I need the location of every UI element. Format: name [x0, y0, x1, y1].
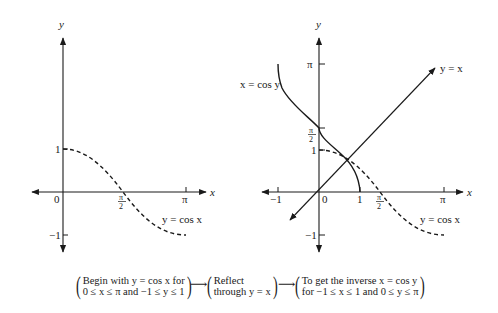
caption-step-reflect: ( Reflect through y = x ) [205, 274, 279, 298]
right-y-tick-halfpi-num: π [309, 126, 313, 135]
right-x-tick-neg1: −1 [270, 193, 282, 205]
left-x-tick-halfpi-num: π [119, 193, 123, 202]
right-graph: y x 0 −1 1 π 2 π π π 2 1 −1 y = x x = co… [240, 18, 472, 252]
caption-step-begin: ( Begin with y = cos x for 0 ≤ x ≤ π and… [74, 274, 194, 298]
left-y-tick-1: 1 [55, 143, 61, 155]
caption-step-reflect-line1: Reflect [214, 275, 271, 287]
caption: ( Begin with y = cos x for 0 ≤ x ≤ π and… [0, 274, 498, 298]
inverse-curve-label: x = cos y [240, 78, 281, 90]
right-y-axis-label: y [315, 18, 321, 30]
left-y-tick-neg1: −1 [49, 229, 61, 241]
caption-step-inverse: ( To get the inverse x = cos y for −1 ≤ … [293, 274, 427, 298]
left-graph: y x 0 1 −1 π 2 π y = cos x [32, 18, 215, 252]
right-y-tick-halfpi-den: 2 [309, 135, 313, 144]
caption-step-begin-line2: 0 ≤ x ≤ π and −1 ≤ y ≤ 1 [83, 286, 185, 298]
left-y-axis-label: y [58, 18, 64, 30]
diagram-canvas: y x 0 1 −1 π 2 π y = cos x y x 0 −1 [0, 0, 498, 313]
right-x-axis-label: x [466, 186, 472, 198]
left-x-tick-pi: π [182, 193, 188, 205]
right-y-tick-neg1: −1 [305, 229, 317, 241]
right-origin-label: 0 [322, 193, 328, 205]
left-x-axis-label: x [209, 186, 215, 198]
right-x-tick-halfpi-den: 2 [377, 202, 381, 211]
caption-step-begin-line1: Begin with y = cos x for [83, 275, 185, 287]
left-curve-label: y = cos x [162, 213, 203, 225]
right-x-tick-halfpi-num: π [377, 193, 381, 202]
right-y-tick-1: 1 [311, 144, 317, 156]
right-y-tick-pi: π [307, 58, 313, 70]
caption-step-inverse-line2: for −1 ≤ x ≤ 1 and 0 ≤ y ≤ π [302, 286, 419, 298]
caption-step-reflect-line2: through y = x [214, 286, 271, 298]
right-x-tick-pi: π [440, 193, 446, 205]
caption-step-inverse-line1: To get the inverse x = cos y [302, 275, 419, 287]
left-origin-label: 0 [54, 193, 60, 205]
right-cos-label: y = cos x [420, 213, 461, 225]
left-x-tick-halfpi-den: 2 [119, 202, 123, 211]
right-x-tick-1: 1 [357, 193, 363, 205]
identity-line-label: y = x [440, 62, 463, 74]
